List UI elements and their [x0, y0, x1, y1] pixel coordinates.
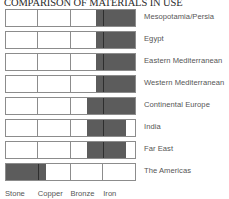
material-bar: [5, 31, 136, 49]
bar-row-label: Continental Europe: [144, 100, 210, 109]
legend-label-stone: Stone: [5, 189, 25, 198]
bar-segment-stone: [6, 76, 38, 92]
bar-fill: [103, 98, 136, 114]
bar-segment-stone: [6, 98, 38, 114]
bar-row: Mesopotamia/Persia: [0, 9, 229, 31]
legend-label-copper: Copper: [38, 189, 63, 198]
bar-segment-stone: [6, 10, 38, 26]
bar-segment-stone: [6, 120, 38, 136]
legend-label-iron: Iron: [103, 189, 116, 198]
bar-fill: [87, 98, 102, 114]
bar-row-label: India: [144, 122, 161, 131]
bar-row: Far East: [0, 141, 229, 163]
bar-fill: [103, 10, 136, 26]
bar-fill: [38, 164, 45, 180]
bar-segment-iron: [103, 164, 135, 180]
bar-rows: Mesopotamia/PersiaEgyptEastern Mediterra…: [0, 9, 229, 185]
material-bar: [5, 75, 136, 93]
bar-segment-copper: [38, 142, 70, 158]
bar-row-label: The Americas: [144, 166, 191, 175]
segment-legend: StoneCopperBronzeIron: [5, 189, 136, 199]
bar-row-label: Western Mediterranean: [144, 78, 224, 87]
bar-segment-copper: [38, 32, 70, 48]
legend-label-bronze: Bronze: [71, 189, 95, 198]
bar-segment-copper: [38, 76, 70, 92]
bar-row-label: Mesopotamia/Persia: [144, 12, 214, 21]
bar-row: Western Mediterranean: [0, 75, 229, 97]
bar-segment-stone: [6, 54, 38, 70]
bar-fill: [103, 54, 136, 70]
material-bar: [5, 9, 136, 27]
material-bar: [5, 97, 136, 115]
bar-segment-copper: [38, 98, 70, 114]
material-bar: [5, 119, 136, 137]
bar-row: Eastern Mediterranean: [0, 53, 229, 75]
bar-row-label: Egypt: [144, 34, 164, 43]
bar-row: Egypt: [0, 31, 229, 53]
bar-row: India: [0, 119, 229, 141]
bar-segment-bronze: [71, 164, 103, 180]
bar-segment-stone: [6, 142, 38, 158]
bar-row-label: Eastern Mediterranean: [144, 56, 222, 65]
bar-row: Continental Europe: [0, 97, 229, 119]
bar-segment-copper: [38, 120, 70, 136]
bar-row: The Americas: [0, 163, 229, 185]
bar-fill: [103, 120, 126, 136]
bar-row-label: Far East: [144, 144, 173, 153]
bar-segment-copper: [38, 10, 70, 26]
bar-segment-copper: [38, 54, 70, 70]
bar-fill: [103, 76, 136, 92]
material-bar: [5, 141, 136, 159]
bar-fill: [87, 120, 102, 136]
bar-fill: [6, 164, 38, 180]
bar-fill: [103, 32, 136, 48]
bar-fill: [87, 142, 102, 158]
bar-segment-stone: [6, 32, 38, 48]
material-bar: [5, 53, 136, 71]
chart-title: COMPARISON OF MATERIALS IN USE: [4, 0, 183, 8]
bar-fill: [103, 142, 126, 158]
material-bar: [5, 163, 136, 181]
